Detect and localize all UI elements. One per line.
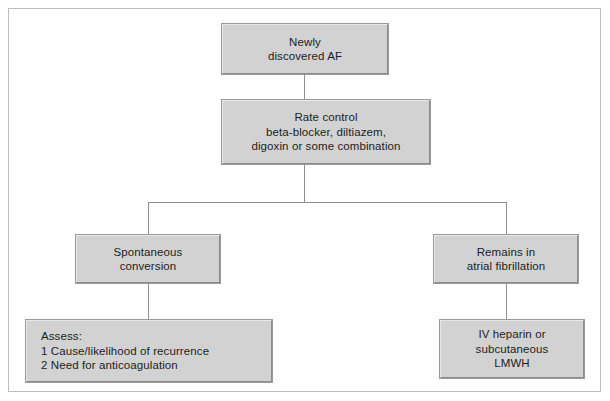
diagram-canvas: Newly discovered AF Rate control beta-bl… — [0, 0, 610, 401]
connector-remains-to-heparin — [506, 283, 507, 320]
text-line: atrial fibrillation — [467, 259, 546, 274]
text-line: beta-blocker, diltiazem, — [251, 125, 400, 140]
text-line: Rate control — [251, 110, 400, 125]
node-newly-discovered-af: Newly discovered AF — [222, 24, 388, 74]
node-spontaneous-conversion-text: Spontaneous conversion — [108, 245, 189, 274]
text-line: subcutaneous — [476, 342, 549, 357]
node-spontaneous-conversion: Spontaneous conversion — [76, 235, 220, 283]
node-rate-control-text: Rate control beta-blocker, diltiazem, di… — [245, 110, 406, 154]
connector-spontaneous-to-assess — [148, 283, 149, 320]
text-line: Assess: — [41, 329, 209, 344]
text-line: digoxin or some combination — [251, 139, 400, 154]
text-line: 2 Need for anticoagulation — [41, 358, 209, 373]
node-remains-in-atrial-fibrillation-text: Remains in atrial fibrillation — [461, 245, 552, 274]
node-iv-heparin-lmwh: IV heparin or subcutaneous LMWH — [440, 320, 584, 378]
connector-newly-discovered-to-rate-control — [304, 74, 305, 100]
node-remains-in-atrial-fibrillation: Remains in atrial fibrillation — [434, 235, 578, 283]
node-assess-text: Assess: 1 Cause/likelihood of recurrence… — [27, 329, 215, 373]
text-line: conversion — [114, 259, 183, 274]
node-newly-discovered-af-text: Newly discovered AF — [262, 35, 348, 64]
text-line: Newly — [268, 35, 342, 50]
node-assess: Assess: 1 Cause/likelihood of recurrence… — [26, 320, 272, 382]
connector-rate-control-stem — [304, 164, 305, 202]
text-line: LMWH — [476, 356, 549, 371]
connector-branch-bar — [148, 202, 506, 203]
text-line: 1 Cause/likelihood of recurrence — [41, 344, 209, 359]
text-line: Remains in — [467, 245, 546, 260]
text-line: Spontaneous — [114, 245, 183, 260]
text-line: discovered AF — [268, 49, 342, 64]
text-line: IV heparin or — [476, 327, 549, 342]
connector-branch-right-drop — [506, 202, 507, 235]
node-iv-heparin-lmwh-text: IV heparin or subcutaneous LMWH — [470, 327, 555, 371]
node-rate-control: Rate control beta-blocker, diltiazem, di… — [222, 100, 430, 164]
connector-branch-left-drop — [148, 202, 149, 235]
